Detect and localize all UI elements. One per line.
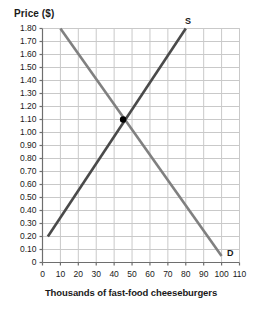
- y-tick-label: 0.30: [7, 218, 37, 228]
- demand-curve: [60, 29, 221, 257]
- data-curves: [48, 29, 222, 257]
- y-tick-label: 0.50: [7, 192, 37, 202]
- y-tick-label: 0.90: [7, 140, 37, 150]
- annotation-points: [120, 116, 126, 122]
- y-tick-label: 0.40: [7, 205, 37, 215]
- axis-tick-marks: [40, 29, 240, 266]
- equilibrium-point: [120, 116, 126, 122]
- y-tick-label: 0.80: [7, 153, 37, 163]
- y-tick-label: 1.20: [7, 101, 37, 111]
- y-tick-label: 1.70: [7, 36, 37, 46]
- y-tick-label: 1.30: [7, 88, 37, 98]
- y-tick-label: 0.10: [7, 244, 37, 254]
- y-tick-label: 1.50: [7, 62, 37, 72]
- supply-demand-chart: Price ($) 00.100.200.300.400.500.600.700…: [0, 0, 262, 310]
- y-tick-label: 0: [7, 257, 37, 267]
- y-tick-label: 1.00: [7, 127, 37, 137]
- x-tick-label: 110: [228, 269, 252, 279]
- y-tick-label: 1.80: [7, 23, 37, 33]
- x-axis-title: Thousands of fast-food cheeseburgers: [0, 287, 262, 298]
- y-tick-label: 0.20: [7, 231, 37, 241]
- y-tick-label: 1.10: [7, 114, 37, 124]
- y-tick-label: 1.60: [7, 49, 37, 59]
- y-tick-label: 1.40: [7, 75, 37, 85]
- y-tick-label: 0.60: [7, 179, 37, 189]
- y-tick-label: 0.70: [7, 166, 37, 176]
- supply-curve-label: S: [185, 16, 191, 26]
- gridlines: [43, 29, 240, 263]
- demand-curve-label: D: [227, 248, 234, 258]
- chart-plot-area: [0, 0, 262, 310]
